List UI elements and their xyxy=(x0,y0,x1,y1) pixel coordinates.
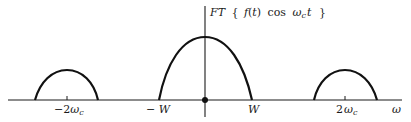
origin-dot xyxy=(202,97,208,103)
label-neg-w: − W xyxy=(146,103,172,116)
omega-axis-label: ω xyxy=(392,103,401,116)
label-pos-2wc: 2ωc xyxy=(336,103,358,117)
label-neg-2wc: −2ωc xyxy=(54,103,84,117)
spectrum-title: FT { f(t) cos ωct } xyxy=(209,6,326,20)
left-sideband-lobe xyxy=(35,70,98,100)
right-sideband-lobe xyxy=(314,70,377,100)
spectrum-diagram: FT { f(t) cos ωct } −2ωc − W W 2ωc ω xyxy=(0,0,411,122)
label-w: W xyxy=(248,103,261,116)
